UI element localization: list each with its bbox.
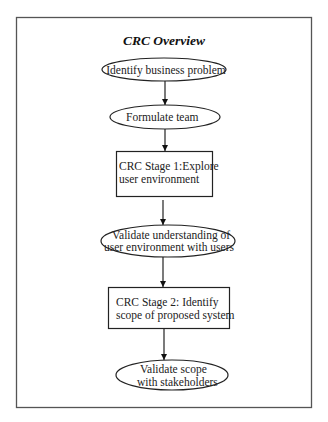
- node-label: Identify business problem: [106, 64, 226, 77]
- node-label: Formulate team: [126, 111, 199, 123]
- diagram-title: CRC Overview: [123, 33, 206, 48]
- node-label-line-2: scope of proposed system: [116, 309, 235, 322]
- node-label-line-2: with stakeholders: [137, 376, 218, 388]
- node-crc-stage-2: CRC Stage 2: Identify scope of proposed …: [109, 288, 235, 329]
- crc-overview-diagram: CRC Overview Identify business problem F…: [0, 0, 328, 422]
- node-identify-business-problem: Identify business problem: [102, 58, 226, 81]
- node-formulate-team: Formulate team: [110, 105, 220, 129]
- node-label-line-1: CRC Stage 1:Explore: [119, 160, 219, 173]
- node-label-line-2: user environment with users: [104, 241, 235, 253]
- node-label-line-1: Validate scope: [140, 363, 207, 376]
- node-crc-stage-1: CRC Stage 1:Explore user environment: [117, 152, 219, 197]
- node-label-line-1: CRC Stage 2: Identify: [116, 296, 219, 309]
- node-validate-understanding: Validate understanding of user environme…: [101, 225, 235, 257]
- node-validate-scope: Validate scope with stakeholders: [116, 360, 228, 390]
- node-label-line-2: user environment: [119, 173, 200, 185]
